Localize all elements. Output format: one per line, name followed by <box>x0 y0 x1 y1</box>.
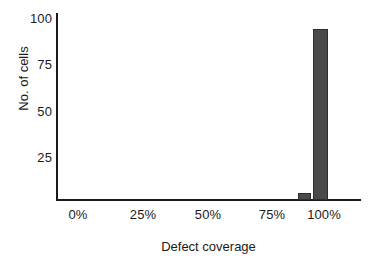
bars-layer <box>0 0 379 271</box>
bar-full-coverage <box>313 29 328 200</box>
x-tick-label-100: 100% <box>307 208 341 221</box>
x-tick-label-25: 25% <box>130 208 156 221</box>
x-axis-title: Defect coverage <box>56 240 361 253</box>
y-axis-title: No. of cells <box>17 24 30 134</box>
chart-figure: 100 75 50 25 0% 25% 50% 75% 100% No. of … <box>0 0 379 271</box>
bar-partial-coverage <box>298 193 311 200</box>
x-tick-label-0: 0% <box>69 208 88 221</box>
x-tick-label-50: 50% <box>195 208 221 221</box>
x-tick-label-75: 75% <box>259 208 285 221</box>
